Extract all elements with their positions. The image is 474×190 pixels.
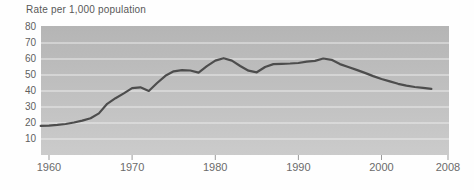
y-axis-label-50: 50 (6, 69, 36, 81)
x-axis-label-1990: 1990 (276, 161, 320, 174)
x-axis-label-1980: 1980 (193, 161, 237, 174)
x-axis-label-1970: 1970 (110, 161, 154, 174)
y-axis-label-20: 20 (6, 117, 36, 129)
x-axis-label-2000: 2000 (360, 161, 404, 174)
y-axis-label-60: 60 (6, 53, 36, 65)
y-axis-label-30: 30 (6, 101, 36, 113)
x-axis-label-1960: 1960 (27, 161, 71, 174)
line-chart-figure: Rate per 1,000 population 80706050403020… (0, 0, 474, 190)
y-axis-label-10: 10 (6, 133, 36, 145)
y-axis-label-80: 80 (6, 21, 36, 33)
y-axis-label-40: 40 (6, 85, 36, 97)
x-axis-label-2008: 2008 (426, 161, 470, 174)
y-axis-label-70: 70 (6, 37, 36, 49)
